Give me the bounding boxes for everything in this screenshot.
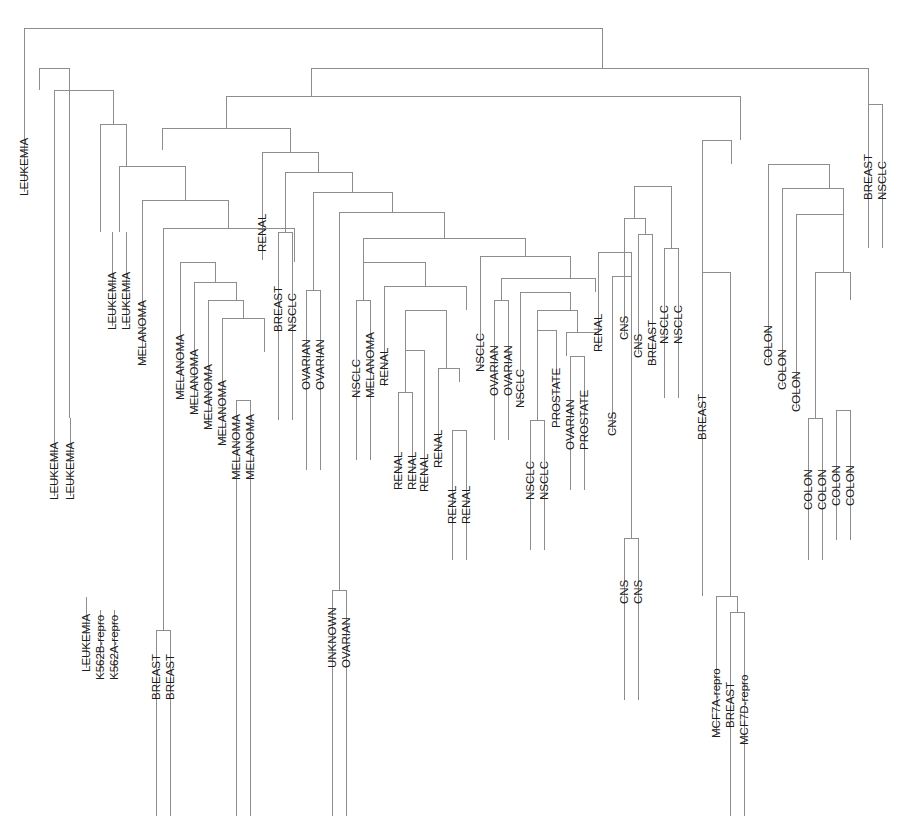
mid-left-e-link [363,238,525,262]
leaf-label-26: RENAL [378,347,390,386]
mel-clade-root-link [119,166,185,232]
nsclc-prost-a-link [537,310,577,332]
leaf-label-61: COLON [844,465,856,506]
leaf-label-9: BREAST [150,654,162,700]
renal-grp-b-link [384,286,466,386]
leaf-label-59: COLON [816,469,828,510]
breast-colon-root-link [702,140,731,272]
mel-node-f-link [222,318,264,352]
leaf-label-16: MELANOMA [244,414,256,480]
leaf-label-25: MELANOMA [364,332,376,398]
leaf-label-3: LEUKEMIA [80,614,92,672]
leaf-label-7: LEUKEMIA [120,272,132,330]
mcf7a-node-link [716,596,737,630]
leuk-node-b-link [54,90,113,418]
dendrogram-leaf-stems [24,52,882,741]
cns-breast-b-link [638,234,652,268]
leaf-label-54: MCF7D-repro [738,675,750,745]
mid-left-link [162,128,290,152]
leaf-label-52: MCF7A-repro [710,668,722,738]
mid-left-b-link [285,172,352,232]
leaf-label-1: LEUKEMIA [48,442,60,500]
leaf-label-28: RENAL [406,451,418,490]
leaf-label-8: MELANOMA [136,300,148,366]
colon-c-link [815,272,850,418]
leaf-label-19: NSCLC [286,293,298,332]
leuk-node-c-link [100,124,126,232]
nsclc-ov-b-link [520,292,570,312]
leaf-label-62: BREAST [862,154,874,200]
mid-root-link [226,96,740,140]
leaf-label-0: LEUKEMIA [18,138,30,196]
leaf-label-22: UNKNOWN [326,607,338,668]
leaf-label-50: NSCLC [672,305,684,344]
leaf-label-63: NSCLC [876,161,888,200]
leaf-label-57: COLON [790,371,802,412]
dendrogram-leaf-labels: LEUKEMIALEUKEMIALEUKEMIALEUKEMIAK562B-re… [18,138,888,745]
renal-grp-a-link [363,262,425,300]
leaf-label-49: NSCLC [658,305,670,344]
leaf-label-20: OVARIAN [300,339,312,390]
leaf-label-4: K562B-repro [94,615,106,680]
leaf-label-11: MELANOMA [174,334,186,400]
leaf-label-40: OVARIAN [564,399,576,450]
leaf-label-44: CNS [618,579,630,604]
leaf-label-58: COLON [802,469,814,510]
leaf-label-53: BREAST [724,682,736,728]
right-root-link [311,68,868,104]
leaf-label-14: MELANOMA [216,380,228,446]
leaf-label-51: BREAST [696,394,708,440]
renal-node-1-link [405,350,424,398]
leaf-label-30: RENAL [432,429,444,468]
dendrogram-canvas: LEUKEMIALEUKEMIALEUKEMIALEUKEMIAK562B-re… [0,0,912,816]
leaf-label-23: OVARIAN [340,617,352,668]
leaf-label-6: LEUKEMIA [106,272,118,330]
colon-b-link [796,214,843,316]
leaf-label-5: K562A-repro [108,615,120,680]
leaf-label-55: COLON [762,325,774,366]
leaf-label-37: NSCLC [524,461,536,500]
renal-node-2-link [438,368,459,430]
leaf-label-47: CNS [632,333,644,358]
leaf-label-29: RENAL [418,453,430,492]
leaf-label-27: RENAL [392,451,404,490]
leaf-label-45: CNS [632,579,644,604]
leaf-label-46: CNS [618,315,630,340]
root-link [24,28,602,68]
leaf-label-41: PROSTATE [578,389,590,450]
leaf-label-35: OVARIAN [502,345,514,396]
colon-a-link [782,188,843,292]
cns-pair-low-link [624,538,638,700]
nsclc-ov-a-link [501,278,595,300]
mel-node-d-link [194,282,236,320]
renal-top-link [262,152,318,260]
leaf-label-60: COLON [830,465,842,506]
leaf-label-33: NSCLC [474,333,486,372]
colon-root-link [768,164,829,268]
leaf-label-48: BREAST [646,320,658,366]
leaf-label-18: BREAST [272,286,284,332]
mid-left-d-link [339,212,444,590]
leaf-label-43: CNS [606,411,618,436]
cns-node-1-link [612,276,631,538]
dendrogram-figure: LEUKEMIALEUKEMIALEUKEMIALEUKEMIAK562B-re… [0,0,912,816]
leaf-label-42: RENAL [592,313,604,352]
renal-grp-c-link [405,310,446,368]
nsclc-ov-root-link [480,256,570,278]
leaf-label-32: RENAL [460,485,472,524]
leaf-label-13: MELANOMA [202,364,214,430]
leaf-label-56: COLON [776,349,788,390]
leaf-label-38: NSCLC [538,461,550,500]
leaf-label-17: RENAL [256,213,268,252]
leaf-label-21: OVARIAN [314,339,326,390]
mid-left-c-link [313,192,392,290]
mel-node-a-link [142,200,228,270]
leaf-label-10: BREAST [164,654,176,700]
leaf-label-39: PROSTATE [550,367,562,428]
leaf-label-15: MELANOMA [230,414,242,480]
leaf-label-24: NSCLC [350,359,362,398]
leaf-label-36: NSCLC [514,369,526,408]
leaf-label-34: OVARIAN [488,345,500,396]
leaf-label-2: LEUKEMIA [64,442,76,500]
mel-node-c-link [180,262,215,305]
